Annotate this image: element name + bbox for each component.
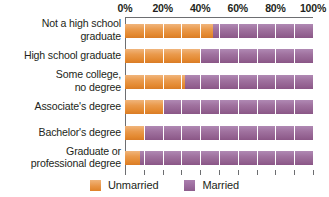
bar-segment-married xyxy=(140,151,313,165)
bar-segment-married xyxy=(185,75,313,89)
stacked-bar-chart: 0%20%40%60%80%100% Not a high schoolgrad… xyxy=(0,0,329,197)
bar-segment-unmarried xyxy=(125,75,185,89)
gridline-60 xyxy=(238,18,239,170)
tickmark-80 xyxy=(275,170,276,175)
tickmark-100 xyxy=(313,170,314,175)
legend-item-unmarried[interactable]: Unmarried xyxy=(90,179,158,191)
category-label: High school graduate xyxy=(1,49,121,61)
bar-segment-unmarried xyxy=(125,49,200,63)
category-label-line: no degree xyxy=(1,81,121,93)
bar-track xyxy=(125,126,313,140)
category-label: Not a high schoolgraduate xyxy=(1,17,121,42)
gridline-20 xyxy=(163,18,164,170)
bar-row xyxy=(125,49,313,63)
bar-segment-married xyxy=(213,24,313,38)
gridline-40 xyxy=(200,18,201,170)
gridline-70 xyxy=(257,18,258,170)
y-axis-category-labels: Not a high schoolgraduateHigh school gra… xyxy=(0,17,121,170)
legend-label-unmarried: Unmarried xyxy=(108,179,158,191)
category-label: Graduate orprofessional degree xyxy=(1,145,121,170)
category-label: Some college,no degree xyxy=(1,68,121,93)
legend-swatch-married xyxy=(184,180,195,191)
category-label: Associate's degree xyxy=(1,100,121,112)
legend-label-married: Married xyxy=(202,179,239,191)
bar-row xyxy=(125,24,313,38)
x-axis-tick-labels: 0%20%40%60%80%100% xyxy=(125,2,313,16)
x-tick-label-60: 60% xyxy=(228,2,248,14)
category-label-line: Graduate or xyxy=(1,145,121,157)
gridline-30 xyxy=(181,18,182,170)
bar-row xyxy=(125,75,313,89)
x-tick-label-100: 100% xyxy=(300,2,326,14)
chart-legend: UnmarriedMarried xyxy=(0,176,329,194)
tickmark-0 xyxy=(125,170,126,175)
bar-track xyxy=(125,49,313,63)
category-label-line: Not a high school xyxy=(1,17,121,29)
category-label: Bachelor's degree xyxy=(1,126,121,138)
tickmark-50 xyxy=(219,170,220,175)
bar-track xyxy=(125,100,313,114)
tickmark-60 xyxy=(238,170,239,175)
gridline-80 xyxy=(275,18,276,170)
bar-track xyxy=(125,24,313,38)
bar-track xyxy=(125,151,313,165)
tickmark-70 xyxy=(257,170,258,175)
legend-item-married[interactable]: Married xyxy=(184,179,239,191)
bar-segment-unmarried xyxy=(125,24,213,38)
tickmark-40 xyxy=(200,170,201,175)
gridline-100 xyxy=(313,18,314,170)
x-tick-label-80: 80% xyxy=(265,2,285,14)
gridline-10 xyxy=(144,18,145,170)
category-label-line: Bachelor's degree xyxy=(1,126,121,138)
category-label-line: Some college, xyxy=(1,68,121,80)
bar-row xyxy=(125,126,313,140)
tickmark-30 xyxy=(181,170,182,175)
bar-row xyxy=(125,100,313,114)
bar-track xyxy=(125,75,313,89)
bar-segment-unmarried xyxy=(125,151,140,165)
tickmark-10 xyxy=(144,170,145,175)
legend-swatch-unmarried xyxy=(90,180,101,191)
x-tick-label-40: 40% xyxy=(190,2,210,14)
category-label-line: Associate's degree xyxy=(1,100,121,112)
x-tick-label-0: 0% xyxy=(118,2,133,14)
category-label-line: High school graduate xyxy=(1,49,121,61)
category-label-line: professional degree xyxy=(1,157,121,169)
bar-segment-married xyxy=(200,49,313,63)
bar-segment-married xyxy=(144,126,313,140)
category-label-line: graduate xyxy=(1,30,121,42)
bar-segment-unmarried xyxy=(125,100,164,114)
bar-segment-unmarried xyxy=(125,126,144,140)
gridline-50 xyxy=(219,18,220,170)
x-axis-tickmarks xyxy=(125,170,313,175)
tickmark-20 xyxy=(163,170,164,175)
plot-area xyxy=(125,17,313,170)
x-tick-label-20: 20% xyxy=(152,2,172,14)
bar-row xyxy=(125,151,313,165)
tickmark-90 xyxy=(294,170,295,175)
gridline-90 xyxy=(294,18,295,170)
bar-segment-married xyxy=(164,100,313,114)
